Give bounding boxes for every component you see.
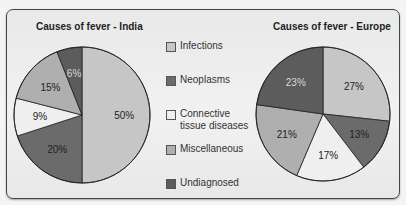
legend-label: Connective tissue diseases	[180, 108, 248, 132]
legend-label: Neoplasms	[180, 74, 230, 86]
legend-label: Infections	[180, 40, 223, 52]
pie-slice-label: 17%	[318, 150, 338, 161]
pie-slice-label: 50%	[114, 110, 134, 121]
legend-swatch-connective-tissue	[166, 110, 176, 120]
legend-item-undiagnosed: Undiagnosed	[166, 177, 239, 189]
legend-item-connective-tissue: Connective tissue diseases	[166, 108, 248, 132]
pie-slice-label: 6%	[67, 68, 82, 79]
legend-label: Miscellaneous	[180, 143, 243, 155]
pie-slice-label: 13%	[349, 129, 369, 140]
legend-item-neoplasms: Neoplasms	[166, 74, 230, 86]
legend-item-infections: Infections	[166, 40, 223, 52]
legend-swatch-miscellaneous	[166, 145, 176, 155]
legend-label: Undiagnosed	[180, 177, 239, 189]
pie-slice-label: 23%	[286, 77, 306, 88]
india-pie-chart: 50%20%9%15%6%	[14, 47, 150, 183]
pie-charts: 50%20%9%15%6% 27%13%17%21%23%	[0, 0, 406, 205]
legend-label-line2: tissue diseases	[180, 120, 248, 131]
europe-pie-chart: 27%13%17%21%23%	[256, 47, 390, 181]
pie-slice-label: 27%	[344, 81, 364, 92]
legend-label-line1: Connective	[180, 108, 230, 119]
pie-slice-label: 9%	[33, 111, 48, 122]
legend-item-miscellaneous: Miscellaneous	[166, 143, 243, 155]
pie-slice-label: 20%	[47, 144, 67, 155]
legend-swatch-neoplasms	[166, 76, 176, 86]
legend-swatch-undiagnosed	[166, 179, 176, 189]
legend-swatch-infections	[166, 42, 176, 52]
pie-slice-label: 21%	[277, 129, 297, 140]
pie-slice-label: 15%	[40, 82, 60, 93]
